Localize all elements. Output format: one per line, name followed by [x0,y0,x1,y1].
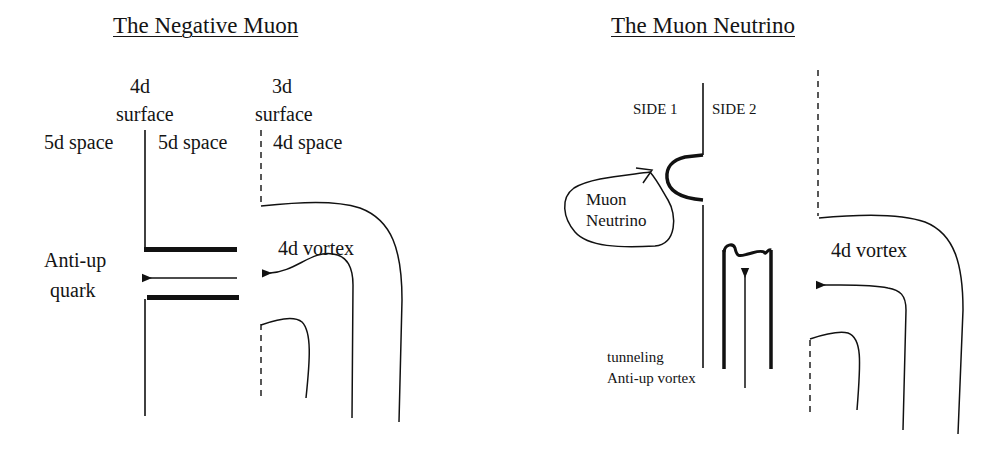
vortex-outer-curve [261,203,402,423]
muon-neutrino-title: The Muon Neutrino [611,14,795,37]
vortex-inner-curve [261,318,309,398]
anti-up-quark-label-line1: Anti-up [44,250,106,270]
surface-4d-label-line1: 4d [130,76,150,96]
surface-4d-label-line2: surface [116,104,174,124]
vortex-4d-label-right: 4d vortex [831,240,907,260]
side2-label: SIDE 2 [712,102,757,117]
vortex-middle-curve [270,254,353,418]
vortex-middle-curve [824,285,906,430]
tunneling-label-line2: Anti-up vortex [607,371,696,386]
tunneling-label-line1: tunneling [607,350,664,365]
neutrino-loop [565,172,674,247]
space-5d-left-label: 5d space [44,132,113,152]
space-4d-right-label: 4d space [273,132,342,152]
tunnel-wavy-top [724,245,771,256]
neutrino-bracket [667,155,703,200]
side1-label: SIDE 1 [633,102,678,117]
vortex-inner-curve [810,332,860,410]
space-5d-middle-label: 5d space [158,132,227,152]
neutrino-loop-arrowhead [636,168,652,183]
negative-muon-title: The Negative Muon [113,14,298,37]
surface-3d-label-line1: 3d [272,76,292,96]
negative-muon-diagram [144,130,402,422]
anti-up-quark-label-line2: quark [50,280,96,300]
surface-3d-label-line2: surface [255,104,313,124]
muon-neutrino-label-line1: Muon [586,191,627,208]
vortex-4d-label-left: 4d vortex [278,238,354,258]
diagram-canvas [0,0,1004,450]
muon-neutrino-label-line2: Neutrino [586,212,646,229]
